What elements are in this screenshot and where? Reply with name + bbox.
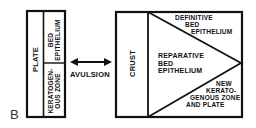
keratogenous-zone-label: KERATOGEN- OUS ZONE [47,65,61,117]
avulsion-label: AVULSION [70,71,110,78]
new-keratogenous-zone-label: NEW KERATO- GENOUS ZONE AND PLATE [186,80,246,108]
definitive-bed-epithelium-label: DEFINITIVE BED EPITHELIUM [175,14,245,35]
reparative-bed-epithelium-label: REPARATIVE BED EPITHELIUM [158,52,204,75]
figure-letter: B [10,107,19,122]
bed-epithelium-label: BED EPITHELIUM [47,15,61,65]
double-arrow-icon [70,58,112,66]
crust-label: CRUST [129,44,136,84]
plate-label: PLATE [32,40,39,80]
